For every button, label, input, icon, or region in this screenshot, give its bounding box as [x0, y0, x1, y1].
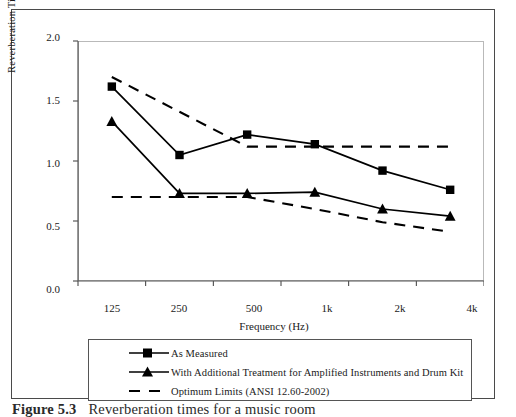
- legend-item-optimum-limits: Optimum Limits (ANSI 12.60-2002): [127, 382, 329, 400]
- legend-label-additional-treatment: With Additional Treatment for Amplified …: [171, 367, 463, 378]
- legend-label-optimum-limits: Optimum Limits (ANSI 12.60-2002): [171, 386, 329, 397]
- x-tick-2k: 2k: [380, 302, 420, 314]
- legend-marker-dashed-icon: [127, 384, 171, 398]
- x-tick-125: 125: [92, 302, 132, 314]
- y-tick-0: 0.0: [30, 283, 60, 295]
- x-axis-title: Frequency (Hz): [64, 320, 484, 332]
- legend-label-as-measured: As Measured: [171, 348, 228, 359]
- series-line: [112, 121, 450, 216]
- series-line: [112, 77, 450, 147]
- y-axis-tick-labels: 0.0 0.5 1.0 1.5 2.0: [30, 30, 60, 297]
- data-point-marker: [378, 166, 386, 174]
- data-point-marker: [106, 116, 117, 126]
- chart-svg: [64, 30, 484, 297]
- y-tick-4: 2.0: [30, 31, 60, 43]
- figure-root: Reverberation Time (s) 0.0 0.5 1.0 1.5 2…: [0, 0, 516, 417]
- legend-marker-square-icon: [127, 346, 171, 360]
- x-tick-4k: 4k: [452, 302, 492, 314]
- figure-border-box: Reverberation Time (s) 0.0 0.5 1.0 1.5 2…: [11, 9, 495, 399]
- legend-marker-triangle-icon: [127, 365, 171, 379]
- chart-legend: As Measured With Additional Treatment fo…: [88, 339, 472, 401]
- figure-caption-text: Reverberation times for a music room: [88, 401, 315, 417]
- y-tick-2: 1.0: [30, 157, 60, 169]
- x-tick-250: 250: [159, 302, 199, 314]
- y-axis-title: Reverberation Time (s): [6, 0, 17, 102]
- data-point-marker: [446, 186, 454, 194]
- legend-item-additional-treatment: With Additional Treatment for Amplified …: [127, 363, 463, 381]
- legend-item-as-measured: As Measured: [127, 344, 228, 362]
- figure-caption-prefix: Figure 5.3: [12, 401, 77, 417]
- y-tick-3: 1.5: [30, 94, 60, 106]
- data-point-marker: [243, 130, 251, 138]
- x-tick-500: 500: [234, 302, 274, 314]
- figure-caption: Figure 5.3 Reverberation times for a mus…: [12, 401, 316, 417]
- plot-area: [64, 30, 484, 297]
- x-axis-tick-labels: 125 250 500 1k 2k 4k: [64, 302, 484, 318]
- y-tick-1: 0.5: [30, 220, 60, 232]
- data-point-marker: [175, 151, 183, 159]
- x-tick-1k: 1k: [307, 302, 347, 314]
- series-line: [112, 197, 450, 232]
- data-point-marker: [108, 82, 116, 90]
